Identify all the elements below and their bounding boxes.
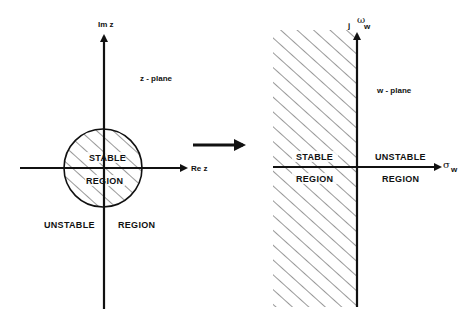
z-stable-label: STABLE	[89, 153, 126, 163]
sigma-w-label: σ w	[443, 159, 458, 174]
z-plane-label: z - plane	[140, 74, 173, 83]
stability-mapping-diagram: Im z Re z z - plane STABLE REGION UNSTAB…	[0, 0, 474, 326]
z-unstable-label: UNSTABLE	[44, 220, 95, 230]
w-plane-label: w - plane	[376, 86, 412, 95]
svg-text:j: j	[347, 21, 350, 30]
w-stable-label: STABLE	[296, 152, 333, 162]
svg-text:σ: σ	[443, 159, 450, 170]
w-plane: j ω w σ w w - plane STABLE REGION UNSTAB…	[273, 14, 458, 307]
j-omega-w-label: j ω w	[347, 14, 371, 31]
w-stable-region-label: REGION	[296, 174, 333, 184]
z-stable-region-label: REGION	[86, 176, 123, 186]
z-unstable-region-label: REGION	[118, 220, 155, 230]
re-z-label: Re z	[191, 164, 207, 173]
z-plane: Im z Re z z - plane STABLE REGION UNSTAB…	[20, 20, 207, 309]
im-z-label: Im z	[98, 20, 114, 29]
svg-text:w: w	[363, 22, 371, 31]
svg-text:w: w	[450, 165, 458, 174]
left-half-plane-stable-region	[273, 30, 357, 307]
w-unstable-label: UNSTABLE	[375, 152, 426, 162]
w-unstable-region-label: REGION	[382, 174, 419, 184]
